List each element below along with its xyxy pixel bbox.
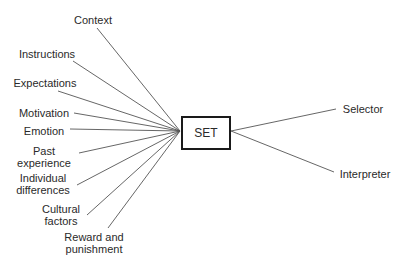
label-cultural-factors: Culturalfactors xyxy=(40,203,82,227)
label-line: Past xyxy=(16,145,72,157)
label-line: punishment xyxy=(63,243,125,255)
label-line: Instructions xyxy=(16,48,78,60)
label-line: Reward and xyxy=(63,231,125,243)
set-label: SET xyxy=(194,126,217,140)
set-box: SET xyxy=(181,116,231,150)
connector-selector xyxy=(231,109,336,131)
connector-reward-punishment xyxy=(108,131,180,228)
label-emotion: Emotion xyxy=(22,125,66,137)
connector-context xyxy=(97,28,180,131)
connector-past-experience xyxy=(79,131,180,153)
label-line: Emotion xyxy=(22,125,66,137)
label-line: Interpreter xyxy=(338,168,392,180)
label-motivation: Motivation xyxy=(18,107,70,119)
label-line: experience xyxy=(16,157,72,169)
connector-instructions xyxy=(73,61,180,131)
label-line: Selector xyxy=(340,103,386,115)
label-line: Context xyxy=(70,14,116,26)
label-line: Expectations xyxy=(12,77,78,89)
label-expectations: Expectations xyxy=(12,77,78,89)
label-line: factors xyxy=(40,215,82,227)
set-diagram: ContextInstructionsExpectationsMotivatio… xyxy=(0,0,401,261)
connector-cultural-factors xyxy=(87,131,180,215)
label-line: differences xyxy=(14,184,72,196)
connector-expectations xyxy=(58,91,180,131)
connector-individual-differences xyxy=(77,131,180,185)
label-interpreter: Interpreter xyxy=(338,168,392,180)
label-past-experience: Pastexperience xyxy=(16,145,72,169)
label-individual-differences: Individualdifferences xyxy=(14,172,72,196)
label-line: Motivation xyxy=(18,107,70,119)
connector-interpreter xyxy=(231,131,334,172)
label-reward-punishment: Reward andpunishment xyxy=(63,231,125,255)
label-instructions: Instructions xyxy=(16,48,78,60)
label-line: Cultural xyxy=(40,203,82,215)
label-selector: Selector xyxy=(340,103,386,115)
label-line: Individual xyxy=(14,172,72,184)
connector-emotion xyxy=(70,129,180,131)
label-context: Context xyxy=(70,14,116,26)
connector-motivation xyxy=(74,113,180,131)
